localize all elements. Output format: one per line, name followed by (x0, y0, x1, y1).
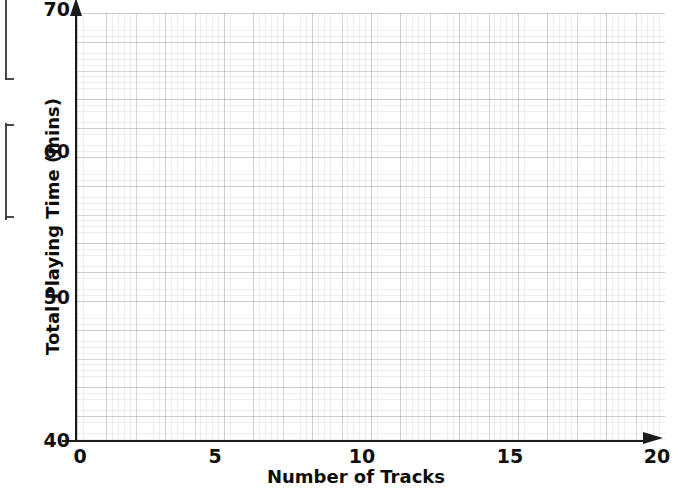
x-axis-arrowhead-icon (643, 432, 663, 444)
x-tick-label-10: 10 (339, 447, 385, 466)
x-tick-label-5: 5 (192, 447, 238, 466)
scan-edge-artifact-cap-top (5, 78, 14, 80)
x-axis-line (76, 440, 649, 442)
y-axis-line (75, 14, 77, 442)
x-tick-label-0: 0 (57, 447, 103, 466)
y-tick-label-70: 70 (24, 0, 70, 19)
y-axis-arrowhead-icon (70, 0, 82, 16)
chart-container: 70 60 50 40 0 5 10 15 20 Total Playing T… (0, 0, 681, 492)
x-axis-title: Number of Tracks (196, 466, 516, 487)
scan-edge-artifact-cap-bottom (5, 216, 14, 218)
x-tick-label-20: 20 (634, 447, 680, 466)
y-axis-title: Total Playing Time (mins) (42, 97, 63, 357)
scan-edge-artifact-upper (5, 0, 7, 80)
scan-edge-artifact-lower (5, 123, 7, 220)
plot-area-grid (77, 13, 665, 441)
x-tick-label-15: 15 (487, 447, 533, 466)
